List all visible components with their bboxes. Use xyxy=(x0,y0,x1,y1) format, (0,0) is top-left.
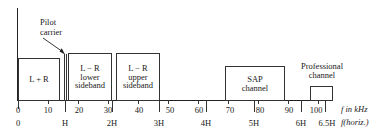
band-sap-channel: SAP channel xyxy=(225,66,285,101)
band-professional-channel xyxy=(310,86,333,101)
x-axis-label-primary: f in kHz xyxy=(341,105,367,114)
x-tick-90 xyxy=(288,100,289,104)
x-tick-label: 50 xyxy=(166,105,175,115)
x-tick-label: 30 xyxy=(104,105,113,115)
annotation-line: Pilot xyxy=(40,17,56,27)
spectrum-diagram: L + R L − R lower sideband L − R upper s… xyxy=(0,0,383,135)
x-tick-20 xyxy=(78,100,79,104)
annotation-line: carrier xyxy=(40,27,62,37)
h-tick-3h xyxy=(159,100,160,112)
h-tick-label: 0 xyxy=(16,118,20,128)
x-tick-70 xyxy=(228,100,229,104)
x-tick-10 xyxy=(48,100,49,104)
h-tick-label: H xyxy=(62,118,68,128)
x-tick-30 xyxy=(108,100,109,104)
x-tick-label: 70 xyxy=(226,105,235,115)
x-tick-label: 20 xyxy=(75,105,84,115)
h-tick-label: 6H xyxy=(296,118,306,128)
x-tick-80 xyxy=(258,100,259,104)
annotation-pilot-carrier: Pilot carrier xyxy=(40,18,62,37)
x-tick-100 xyxy=(318,100,319,104)
h-tick-label: 6.5H xyxy=(319,118,336,128)
band-lr-lower-sideband: L − R lower sideband xyxy=(68,53,112,101)
band-label-line: channel xyxy=(242,84,268,93)
h-tick-label: 2H xyxy=(107,118,117,128)
x-tick-label: 100 xyxy=(310,105,323,115)
h-tick-4h xyxy=(206,100,207,112)
pilot-carrier-line xyxy=(64,54,65,101)
h-tick-label: 3H xyxy=(154,118,164,128)
x-tick-label: 0 xyxy=(16,105,20,115)
band-label-line: sideband xyxy=(75,81,105,90)
x-tick-label: 10 xyxy=(44,105,53,115)
x-tick-40 xyxy=(138,100,139,104)
x-tick-label: 60 xyxy=(195,105,204,115)
band-l-plus-r: L + R xyxy=(18,58,60,101)
x-tick-label: 80 xyxy=(256,105,265,115)
band-label-line: sideband xyxy=(123,81,153,90)
h-tick-1h xyxy=(65,100,66,112)
x-tick-60 xyxy=(198,100,199,104)
x-tick-50 xyxy=(168,100,169,104)
h-tick-6h xyxy=(301,100,302,112)
x-tick-label: 90 xyxy=(285,105,294,115)
band-label-line: L + R xyxy=(29,75,49,84)
annotation-line: channel xyxy=(309,70,335,80)
h-tick-6p5h xyxy=(325,100,326,112)
band-lr-upper-sideband: L − R upper sideband xyxy=(116,53,160,101)
x-tick-label: 40 xyxy=(135,105,144,115)
pilot-carrier-line-2 xyxy=(66,54,67,101)
h-tick-label: 4H xyxy=(201,118,211,128)
x-axis-label-secondary: f(horiz.) xyxy=(341,118,369,127)
h-tick-label: 5H xyxy=(249,118,259,128)
annotation-professional-channel: Professional channel xyxy=(283,62,361,80)
